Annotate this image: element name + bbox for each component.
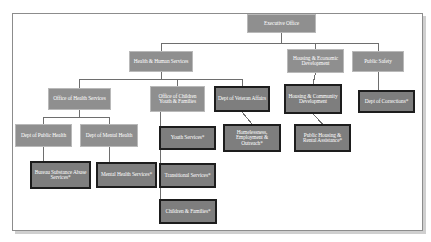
node-label: Public Safety: [354, 59, 402, 65]
node-public-housing-rental-assistance[interactable]: Public Housing & Rental Assistance*: [294, 124, 351, 152]
node-public-safety[interactable]: Public Safety: [352, 51, 404, 72]
node-layer: Executive OfficeHealth & Human ServicesH…: [0, 0, 431, 242]
node-housing-community-development[interactable]: Housing & Community Development: [284, 84, 342, 114]
node-executive-office[interactable]: Executive Office: [247, 14, 316, 33]
node-dept-of-corrections[interactable]: Dept of Corrections*: [358, 90, 415, 113]
node-children-families[interactable]: Children & Families*: [159, 199, 217, 224]
node-label: Housing & Economic Development: [289, 56, 342, 67]
node-label: Homelessness, Employment & Outreach*: [226, 130, 278, 147]
node-dept-of-public-health[interactable]: Dept of Public Health: [15, 124, 72, 147]
node-mental-health-services[interactable]: Mental Health Services*: [96, 162, 157, 188]
node-label: Dept of Veteran Affairs: [217, 96, 267, 102]
node-label: Dept of Corrections*: [361, 99, 412, 105]
node-label: Bureau Substance Abuse Services*: [33, 170, 88, 181]
node-label: Youth Services*: [162, 135, 213, 141]
node-label: Housing & Community Development: [287, 94, 339, 105]
node-label: Dept of Mental Health: [82, 133, 136, 139]
node-homelessness-employment-outreach[interactable]: Homelessness, Employment & Outreach*: [223, 124, 281, 152]
node-youth-services[interactable]: Youth Services*: [159, 126, 216, 150]
node-bureau-substance-abuse-services[interactable]: Bureau Substance Abuse Services*: [30, 161, 91, 189]
node-dept-of-veteran-affairs[interactable]: Dept of Veteran Affairs: [214, 86, 270, 112]
node-label: Mental Health Services*: [99, 172, 154, 178]
node-office-of-health-services[interactable]: Office of Health Services: [48, 88, 111, 110]
node-label: Office of Children Youth & Families: [152, 94, 203, 105]
node-label: Transitional Services*: [162, 173, 213, 179]
node-transitional-services[interactable]: Transitional Services*: [159, 163, 216, 188]
node-label: Executive Office: [249, 21, 314, 27]
node-label: Public Housing & Rental Assistance*: [297, 133, 348, 144]
node-label: Children & Families*: [162, 209, 214, 215]
node-office-of-children-youth-families[interactable]: Office of Children Youth & Families: [150, 86, 205, 112]
node-label: Health & Human Services: [131, 59, 191, 65]
node-label: Dept of Public Health: [17, 133, 70, 139]
node-dept-of-mental-health[interactable]: Dept of Mental Health: [80, 124, 138, 147]
org-chart-page: Executive OfficeHealth & Human ServicesH…: [0, 0, 431, 242]
node-label: Office of Health Services: [50, 96, 109, 102]
node-housing-economic-development[interactable]: Housing & Economic Development: [287, 49, 344, 73]
node-health-human-services[interactable]: Health & Human Services: [129, 51, 193, 72]
